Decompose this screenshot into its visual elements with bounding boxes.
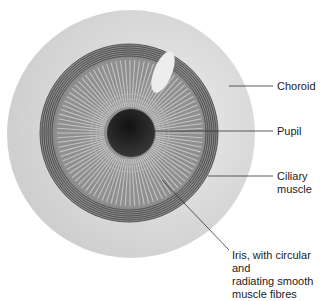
label-ciliary-line1: Ciliary [277,170,312,183]
label-iris: Iris, with circular and radiating smooth… [232,249,329,301]
label-iris-line3: muscle fibres [232,288,329,301]
label-ciliary-line2: muscle [277,183,312,196]
pupil [107,109,155,157]
label-pupil: Pupil [277,125,301,138]
label-iris-line2: radiating smooth [232,275,329,288]
label-iris-line1: Iris, with circular and [232,249,329,275]
label-choroid: Choroid [277,80,316,93]
label-ciliary: Ciliary muscle [277,170,312,196]
